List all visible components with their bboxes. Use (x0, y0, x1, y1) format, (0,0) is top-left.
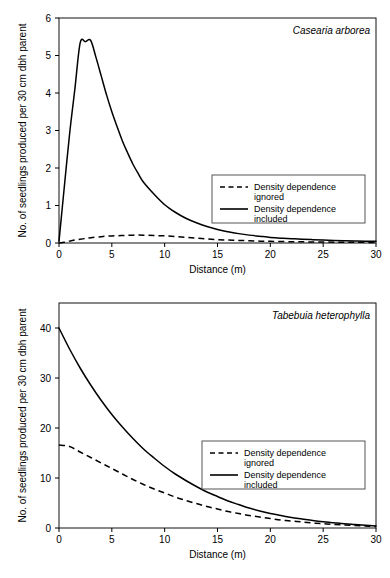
y-tick-label: 0 (45, 238, 51, 249)
plot-frame (59, 303, 376, 528)
x-tick-label: 20 (265, 249, 277, 260)
species-name: Casearia arborea (293, 25, 371, 36)
series-curve-included (59, 328, 376, 526)
y-axis-title: No. of seedlings produced per 30 cm dbh … (17, 308, 28, 522)
x-tick-label: 20 (265, 534, 277, 545)
x-tick-label: 15 (212, 249, 224, 260)
x-tick-label: 5 (109, 534, 115, 545)
x-tick-label: 10 (159, 249, 171, 260)
y-tick-label: 20 (40, 423, 52, 434)
x-tick-label: 5 (109, 249, 115, 260)
x-tick-label: 0 (56, 534, 62, 545)
legend-label-line1: Density dependence (244, 448, 326, 458)
y-tick-label: 10 (40, 473, 52, 484)
y-tick-label: 3 (45, 125, 51, 136)
series-curve-ignored (59, 235, 376, 243)
x-tick-label: 25 (318, 534, 330, 545)
x-axis-title: Distance (m) (189, 549, 246, 560)
x-tick-label: 30 (370, 249, 382, 260)
y-tick-label: 4 (45, 88, 51, 99)
y-tick-label: 2 (45, 163, 51, 174)
legend-label-line2: ignored (254, 192, 284, 202)
legend-label-line1: Density dependence (254, 182, 336, 192)
y-tick-label: 5 (45, 50, 51, 61)
y-tick-label: 30 (40, 373, 52, 384)
y-tick-label: 0 (45, 523, 51, 534)
y-axis-title: No. of seedlings produced per 30 cm dbh … (17, 23, 28, 237)
x-tick-label: 30 (370, 534, 382, 545)
y-tick-label: 40 (40, 323, 52, 334)
chart-panel-top: 0123456051015202530Distance (m)No. of se… (0, 0, 390, 289)
legend-label-line2: included (254, 214, 288, 224)
x-tick-label: 0 (56, 249, 62, 260)
x-axis-title: Distance (m) (189, 264, 246, 275)
legend-label-line1: Density dependence (254, 204, 336, 214)
chart-svg-casearia-arborea: 0123456051015202530Distance (m)No. of se… (0, 0, 390, 289)
legend-label-line1: Density dependence (244, 470, 326, 480)
y-tick-label: 1 (45, 200, 51, 211)
x-tick-label: 10 (159, 534, 171, 545)
chart-svg-tabebuia-heterophylla: 010203040051015202530Distance (m)No. of … (0, 289, 390, 578)
x-tick-label: 15 (212, 534, 224, 545)
x-tick-label: 25 (318, 249, 330, 260)
legend-label-line2: included (244, 480, 278, 490)
y-tick-label: 6 (45, 13, 51, 24)
figure-container: 0123456051015202530Distance (m)No. of se… (0, 0, 390, 578)
species-name: Tabebuia heterophylla (272, 310, 370, 321)
chart-panel-bottom: 010203040051015202530Distance (m)No. of … (0, 289, 390, 578)
legend-label-line2: ignored (244, 458, 274, 468)
